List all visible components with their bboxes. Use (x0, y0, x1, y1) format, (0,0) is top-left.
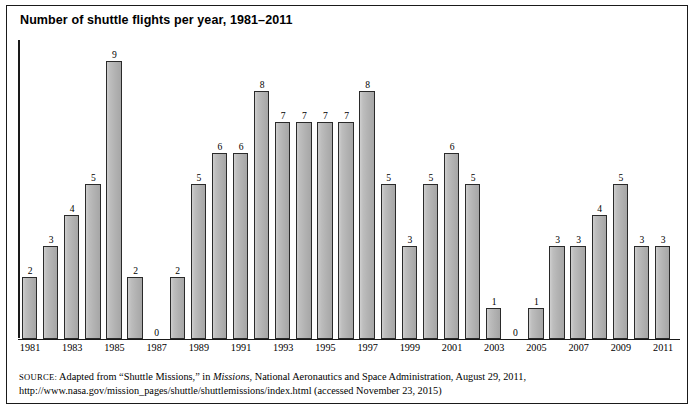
bar-rect (402, 246, 417, 339)
bar-value-label: 5 (188, 172, 209, 183)
bar-rect (423, 184, 438, 338)
bar-value-label: 5 (610, 172, 631, 183)
bar-value-label: 6 (209, 141, 230, 152)
bar-1996[interactable]: 7 (336, 43, 357, 339)
bar-1987[interactable]: 0 (146, 43, 167, 339)
bar-2006[interactable]: 3 (547, 43, 568, 339)
bar-1998[interactable]: 5 (378, 43, 399, 339)
bar-rect (106, 61, 121, 339)
bar-value-label: 0 (146, 327, 167, 338)
bar-value-label: 2 (167, 265, 188, 276)
bar-rect (317, 122, 332, 338)
bar-value-label: 3 (547, 234, 568, 245)
bar-1997[interactable]: 8 (357, 43, 378, 339)
bar-value-label: 8 (252, 79, 273, 90)
bar-2001[interactable]: 6 (442, 43, 463, 339)
bar-1982[interactable]: 3 (41, 43, 62, 339)
bar-rect (22, 277, 37, 339)
bar-value-label: 2 (20, 265, 41, 276)
bar-1989[interactable]: 5 (188, 43, 209, 339)
bar-value-label: 3 (653, 234, 674, 245)
bar-rect (655, 246, 670, 339)
bar-value-label: 0 (505, 327, 526, 338)
bar-1988[interactable]: 2 (167, 43, 188, 339)
bar-value-label: 5 (420, 172, 441, 183)
bar-rect (85, 184, 100, 338)
shuttle-flights-figure: Number of shuttle flights per year, 1981… (0, 0, 694, 410)
bar-rect (528, 308, 543, 339)
bar-rect (170, 277, 185, 339)
bar-2007[interactable]: 3 (568, 43, 589, 339)
bar-2009[interactable]: 5 (610, 43, 631, 339)
bar-1990[interactable]: 6 (209, 43, 230, 339)
bar-value-label: 5 (83, 172, 104, 183)
bar-rect (64, 215, 79, 339)
bar-1995[interactable]: 7 (315, 43, 336, 339)
bar-rect (634, 246, 649, 339)
bar-1984[interactable]: 5 (83, 43, 104, 339)
bar-rect (592, 215, 607, 339)
bar-rect (359, 91, 374, 338)
bar-rect (254, 91, 269, 338)
bar-value-label: 7 (273, 110, 294, 121)
bar-value-label: 3 (399, 234, 420, 245)
bar-2002[interactable]: 5 (463, 43, 484, 339)
bar-1983[interactable]: 4 (62, 43, 83, 339)
bar-1993[interactable]: 7 (273, 43, 294, 339)
bar-1985[interactable]: 9 (104, 43, 125, 339)
bar-rect (233, 153, 248, 338)
bar-2005[interactable]: 1 (526, 43, 547, 339)
source-label: SOURCE: (19, 372, 57, 382)
bar-1981[interactable]: 2 (20, 43, 41, 339)
bar-2004[interactable]: 0 (505, 43, 526, 339)
bar-rect (191, 184, 206, 338)
bar-rect (275, 122, 290, 338)
bar-2000[interactable]: 5 (420, 43, 441, 339)
bar-rect (486, 308, 501, 339)
bar-value-label: 6 (442, 141, 463, 152)
bar-rect (444, 153, 459, 338)
bar-value-label: 4 (62, 203, 83, 214)
bar-rect (570, 246, 585, 339)
bar-value-label: 5 (463, 172, 484, 183)
bar-value-label: 5 (378, 172, 399, 183)
bar-rect (296, 122, 311, 338)
bar-2010[interactable]: 3 (631, 43, 652, 339)
bar-rect (43, 246, 58, 339)
bar-1986[interactable]: 2 (125, 43, 146, 339)
bar-1992[interactable]: 8 (252, 43, 273, 339)
bar-value-label: 1 (484, 296, 505, 307)
bar-value-label: 9 (104, 49, 125, 60)
source-citation: SOURCE: Adapted from “Shuttle Missions,”… (19, 370, 674, 398)
bar-value-label: 2 (125, 265, 146, 276)
bar-series: 2345920256687777853565101334533 (20, 43, 680, 339)
bar-1991[interactable]: 6 (231, 43, 252, 339)
bar-rect (127, 277, 142, 339)
bar-rect (338, 122, 353, 338)
bar-rect (465, 184, 480, 338)
bar-value-label: 7 (315, 110, 336, 121)
bar-value-label: 3 (568, 234, 589, 245)
bar-1999[interactable]: 3 (399, 43, 420, 339)
source-italic-title: Missions (213, 371, 250, 382)
bar-value-label: 8 (357, 79, 378, 90)
bar-rect (212, 153, 227, 338)
bar-2011[interactable]: 3 (653, 43, 674, 339)
bar-value-label: 3 (631, 234, 652, 245)
bar-value-label: 1 (526, 296, 547, 307)
x-tick-2011: 2011 (638, 342, 688, 353)
bar-2008[interactable]: 4 (589, 43, 610, 339)
bar-value-label: 4 (589, 203, 610, 214)
bar-value-label: 6 (231, 141, 252, 152)
x-axis-tick-labels: 1981198319851987198919911993199519971999… (20, 342, 680, 360)
source-text-before: Adapted from “Shuttle Missions,” in (57, 371, 213, 382)
bar-value-label: 3 (41, 234, 62, 245)
bar-1994[interactable]: 7 (294, 43, 315, 339)
bar-rect (613, 184, 628, 338)
bar-rect (549, 246, 564, 339)
bar-value-label: 7 (294, 110, 315, 121)
chart-plot-area: 2345920256687777853565101334533 (18, 40, 680, 340)
bar-rect (381, 184, 396, 338)
bar-2003[interactable]: 1 (484, 43, 505, 339)
x-axis-line (18, 339, 680, 341)
